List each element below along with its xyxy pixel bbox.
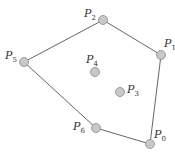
point-p3 [116,88,125,97]
label-p5: P5 [4,49,17,64]
point-p2 [99,16,108,25]
label-p2: P2 [83,7,96,22]
point-p6 [92,124,101,133]
convex-hull-diagram: P0P1P2P3P4P5P6 [0,0,175,154]
diagram-svg: P0P1P2P3P4P5P6 [0,0,175,154]
points-group [20,16,166,149]
point-p5 [20,58,29,67]
point-p1 [157,51,166,60]
label-p1: P1 [163,37,175,52]
point-p4 [91,68,100,77]
label-p4: P4 [85,53,98,68]
label-p3: P3 [126,83,139,98]
label-p6: P6 [72,120,85,135]
label-p0: P0 [153,128,166,143]
